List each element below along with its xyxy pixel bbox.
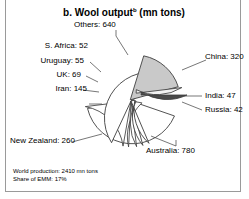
pie-label-uruguay: Uruguay: 55 bbox=[6, 56, 84, 65]
leader-line-new-zealand bbox=[72, 134, 102, 142]
pie-label-iran: Iran: 145 bbox=[6, 84, 87, 93]
leader-line-australia bbox=[151, 136, 176, 146]
leader-line-china bbox=[182, 60, 206, 70]
leader-line-russia bbox=[182, 102, 202, 110]
chart-figure: b. Wool outputb (mn tons) bbox=[0, 0, 249, 199]
chart-panel: b. Wool outputb (mn tons) bbox=[5, 0, 241, 192]
pie-label-others: Others: 640 bbox=[74, 20, 116, 29]
footnote-share-of-emm: Share of EMM: 17% bbox=[13, 176, 98, 184]
pie-label-india: India: 47 bbox=[205, 91, 236, 100]
leader-line-s-africa bbox=[90, 62, 101, 72]
pie-label-uk: UK: 69 bbox=[6, 70, 81, 79]
pie-label-s-africa: S. Africa: 52 bbox=[6, 41, 88, 50]
pie-label-new-zealand: New Zealand: 260 bbox=[10, 136, 75, 145]
pie-label-australia: Australia: 780 bbox=[146, 146, 195, 155]
leader-line-uruguay bbox=[86, 76, 98, 82]
pie-label-china: China: 320 bbox=[205, 52, 244, 61]
chart-footnotes: World production: 2410 mn tons Share of … bbox=[13, 168, 98, 183]
leader-line-others bbox=[116, 30, 128, 55]
pie-label-russia: Russia: 42 bbox=[205, 105, 243, 114]
footnote-world-production: World production: 2410 mn tons bbox=[13, 168, 98, 176]
